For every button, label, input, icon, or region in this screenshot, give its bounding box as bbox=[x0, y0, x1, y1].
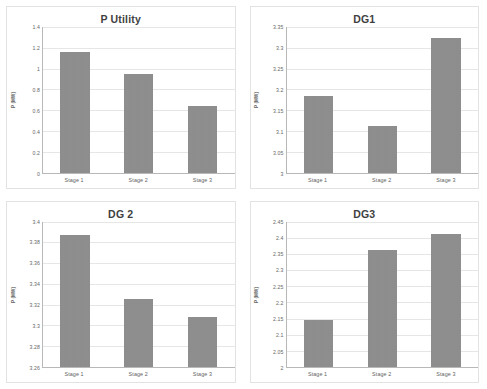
x-tick-label: Stage 3 bbox=[414, 174, 478, 188]
y-tick-label: 3.1 bbox=[276, 129, 284, 135]
bar-slot bbox=[171, 222, 235, 368]
bar-stage-3 bbox=[431, 234, 460, 367]
y-tick-label: 3.34 bbox=[30, 281, 41, 287]
y-tick-label: 3.15 bbox=[273, 108, 284, 114]
bar-stage-2 bbox=[368, 250, 397, 367]
gridline bbox=[287, 173, 479, 174]
bar-stage-3 bbox=[431, 38, 460, 172]
y-tick-label: 1.4 bbox=[32, 24, 40, 30]
y-tick-label: 0.4 bbox=[32, 129, 40, 135]
y-axis-ticks: 33.053.13.153.23.253.33.35 bbox=[262, 27, 286, 174]
bar-stage-1 bbox=[304, 96, 333, 173]
x-tick-label: Stage 3 bbox=[170, 174, 234, 188]
y-axis-ticks: 22.052.12.152.22.252.32.352.42.45 bbox=[262, 222, 286, 369]
y-tick-label: 3.3 bbox=[276, 45, 284, 51]
bar-series bbox=[43, 27, 235, 173]
x-tick-label: Stage 3 bbox=[414, 368, 478, 382]
y-tick-label: 1.2 bbox=[32, 45, 40, 51]
bar-series bbox=[287, 27, 479, 173]
y-axis-label-text: P (MW) bbox=[254, 287, 259, 303]
y-tick-label: 3.3 bbox=[32, 323, 40, 329]
x-axis-ticks: Stage 1Stage 2Stage 3 bbox=[42, 174, 235, 188]
x-tick-label: Stage 2 bbox=[106, 174, 170, 188]
x-tick-label: Stage 2 bbox=[350, 368, 414, 382]
y-axis-label: P (MW) bbox=[251, 222, 262, 369]
plot-area: P (MW)33.053.13.153.23.253.33.35 bbox=[251, 27, 479, 174]
chart-panel-body: P UtilityP (MW)00.20.40.60.811.21.4Stage… bbox=[6, 6, 236, 189]
bar-slot bbox=[414, 27, 478, 173]
y-tick-label: 3.4 bbox=[32, 219, 40, 225]
chart-title: DG1 bbox=[251, 7, 479, 27]
y-tick-label: 3.25 bbox=[273, 66, 284, 72]
x-tick-label: Stage 1 bbox=[42, 368, 106, 382]
y-tick-label: 3.28 bbox=[30, 344, 41, 350]
plot-canvas bbox=[42, 222, 235, 369]
y-axis-ticks: 3.263.283.33.323.343.363.383.4 bbox=[18, 222, 42, 369]
y-tick-label: 3.35 bbox=[273, 24, 284, 30]
y-axis-label: P (MW) bbox=[251, 27, 262, 174]
bar-slot bbox=[350, 222, 414, 368]
y-axis-label: P (MW) bbox=[7, 222, 18, 369]
x-tick-label: Stage 3 bbox=[170, 368, 234, 382]
y-tick-label: 0.2 bbox=[32, 150, 40, 156]
bar-slot bbox=[350, 27, 414, 173]
y-tick-label: 2.15 bbox=[273, 316, 284, 322]
y-tick-label: 3.05 bbox=[273, 150, 284, 156]
chart-panel-p-utility: P UtilityP (MW)00.20.40.60.811.21.4Stage… bbox=[0, 0, 244, 195]
bar-stage-1 bbox=[60, 235, 89, 367]
chart-panel-body: DG1P (MW)33.053.13.153.23.253.33.35Stage… bbox=[250, 6, 480, 189]
y-tick-label: 2.2 bbox=[276, 300, 284, 306]
chart-title: DG 2 bbox=[7, 202, 235, 222]
plot-area: P (MW)00.20.40.60.811.21.4 bbox=[7, 27, 235, 174]
y-tick-label: 2 bbox=[281, 365, 284, 371]
plot-area: P (MW)3.263.283.33.323.343.363.383.4 bbox=[7, 222, 235, 369]
chart-grid: P UtilityP (MW)00.20.40.60.811.21.4Stage… bbox=[0, 0, 487, 389]
bar-slot bbox=[171, 27, 235, 173]
bar-stage-1 bbox=[304, 320, 333, 367]
y-axis-label: P (MW) bbox=[7, 27, 18, 174]
y-axis-label-text: P (MW) bbox=[10, 92, 15, 108]
bar-stage-3 bbox=[188, 106, 217, 172]
y-tick-label: 1 bbox=[37, 66, 40, 72]
gridline bbox=[43, 367, 235, 368]
y-tick-label: 2.3 bbox=[276, 267, 284, 273]
chart-title: P Utility bbox=[7, 7, 235, 27]
plot-area: P (MW)22.052.12.152.22.252.32.352.42.45 bbox=[251, 222, 479, 369]
bar-series bbox=[287, 222, 479, 368]
chart-panel-body: DG 2P (MW)3.263.283.33.323.343.363.383.4… bbox=[6, 201, 236, 384]
plot-canvas bbox=[42, 27, 235, 174]
x-tick-label: Stage 1 bbox=[286, 368, 350, 382]
bar-slot bbox=[43, 27, 107, 173]
y-tick-label: 3 bbox=[281, 171, 284, 177]
bar-series bbox=[43, 222, 235, 368]
chart-panel-body: DG3P (MW)22.052.12.152.22.252.32.352.42.… bbox=[250, 201, 480, 384]
x-tick-label: Stage 2 bbox=[106, 368, 170, 382]
x-axis-ticks: Stage 1Stage 2Stage 3 bbox=[286, 368, 479, 382]
bar-stage-2 bbox=[124, 299, 153, 367]
plot-canvas bbox=[286, 222, 479, 369]
x-tick-label: Stage 1 bbox=[42, 174, 106, 188]
gridline bbox=[43, 173, 235, 174]
y-tick-label: 3.2 bbox=[276, 87, 284, 93]
x-tick-label: Stage 1 bbox=[286, 174, 350, 188]
bar-slot bbox=[287, 222, 351, 368]
chart-panel-dg3: DG3P (MW)22.052.12.152.22.252.32.352.42.… bbox=[244, 195, 487, 389]
y-tick-label: 2.4 bbox=[276, 235, 284, 241]
bar-slot bbox=[414, 222, 478, 368]
bar-stage-2 bbox=[124, 74, 153, 173]
y-axis-label-text: P (MW) bbox=[254, 92, 259, 108]
bar-stage-2 bbox=[368, 126, 397, 173]
x-axis-ticks: Stage 1Stage 2Stage 3 bbox=[286, 174, 479, 188]
x-axis-ticks: Stage 1Stage 2Stage 3 bbox=[42, 368, 235, 382]
y-tick-label: 3.36 bbox=[30, 260, 41, 266]
y-tick-label: 2.25 bbox=[273, 284, 284, 290]
bar-stage-3 bbox=[188, 317, 217, 367]
y-tick-label: 2.45 bbox=[273, 219, 284, 225]
y-tick-label: 3.38 bbox=[30, 239, 41, 245]
x-tick-label: Stage 2 bbox=[350, 174, 414, 188]
y-tick-label: 0.8 bbox=[32, 87, 40, 93]
y-axis-ticks: 00.20.40.60.811.21.4 bbox=[18, 27, 42, 174]
gridline bbox=[287, 367, 479, 368]
bar-slot bbox=[107, 27, 171, 173]
bar-slot bbox=[43, 222, 107, 368]
